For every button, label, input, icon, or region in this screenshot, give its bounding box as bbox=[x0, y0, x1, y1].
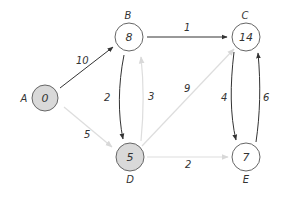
edge-weight-C-E: 4 bbox=[221, 92, 227, 103]
graph-diagram: 5 3 9 2 10 1 2 4 6 0 A 8 B bbox=[0, 0, 284, 198]
edge-B-D: 2 bbox=[104, 55, 124, 139]
node-label-C: C bbox=[242, 10, 249, 21]
node-label-D: D bbox=[126, 174, 134, 185]
edge-weight-E-C: 6 bbox=[263, 92, 269, 103]
node-value-C: 14 bbox=[239, 31, 253, 44]
edge-weight-A-B: 10 bbox=[76, 55, 89, 66]
node-C[interactable]: 14 C bbox=[232, 10, 260, 51]
edge-weight-D-E: 2 bbox=[185, 159, 191, 170]
edge-D-E: 2 bbox=[147, 157, 228, 170]
node-label-A: A bbox=[20, 93, 28, 104]
node-label-E: E bbox=[243, 174, 250, 185]
edge-weight-A-D: 5 bbox=[84, 129, 90, 140]
node-A[interactable]: 0 A bbox=[20, 85, 58, 111]
edge-weight-B-D: 2 bbox=[104, 92, 110, 103]
edge-weight-D-C: 9 bbox=[184, 83, 190, 94]
edge-A-D: 5 bbox=[64, 107, 112, 147]
node-value-A: 0 bbox=[42, 92, 49, 105]
edge-B-C: 1 bbox=[147, 22, 227, 37]
node-B[interactable]: 8 B bbox=[115, 10, 143, 51]
node-value-E: 7 bbox=[243, 151, 250, 164]
node-value-B: 8 bbox=[126, 31, 133, 44]
edge-E-C: 6 bbox=[256, 53, 269, 142]
edge-C-E: 4 bbox=[221, 52, 236, 140]
edge-weight-D-B: 3 bbox=[148, 91, 154, 102]
node-value-D: 5 bbox=[127, 151, 134, 164]
edge-weight-B-C: 1 bbox=[184, 22, 190, 33]
edge-A-B: 10 bbox=[60, 47, 113, 88]
edge-D-B: 3 bbox=[141, 57, 154, 141]
node-label-B: B bbox=[125, 10, 132, 21]
node-D[interactable]: 5 D bbox=[116, 143, 144, 185]
node-E[interactable]: 7 E bbox=[232, 143, 260, 185]
